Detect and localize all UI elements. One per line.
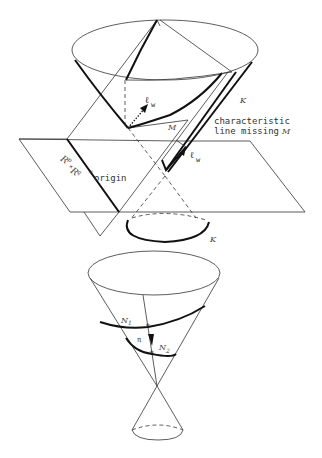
label-pi: π	[137, 336, 142, 344]
N1-point: *	[145, 322, 150, 332]
lower-diagram: * * N 1 N 2 π	[88, 251, 220, 440]
lower-cone-base	[132, 430, 183, 440]
label-K-upper: K	[239, 96, 247, 105]
label-top-vector-sub: w	[151, 101, 156, 109]
label-N2-sub: 2	[165, 347, 170, 354]
lower-cone-top-ellipse	[88, 251, 220, 295]
label-top-vector: ℓ	[145, 95, 149, 105]
label-characteristic: characteristic	[214, 116, 290, 126]
label-line-missing: line missing	[214, 126, 279, 136]
label-line-missing-M: M	[281, 127, 291, 136]
N2-point: *	[149, 349, 154, 359]
upper-diagram: * K K M ℓ w ℓ w characteristic line miss…	[19, 20, 305, 244]
label-K-lower: K	[209, 235, 217, 244]
origin-star: *	[88, 169, 93, 179]
projection-arrow	[148, 334, 154, 346]
label-origin: origin	[94, 173, 127, 183]
figure-canvas: * K K M ℓ w ℓ w characteristic line miss…	[0, 0, 322, 458]
N1-curve	[100, 306, 205, 328]
lower-cone-left-edge	[90, 278, 157, 386]
projection-line	[143, 295, 157, 386]
lower-cone-right-edge	[157, 278, 219, 386]
label-M: M	[167, 123, 177, 132]
label-char-vector-sub: w	[196, 156, 201, 164]
label-char-vector: ℓ	[190, 150, 194, 160]
label-rpq: R p × R q	[56, 151, 86, 179]
cone-K-lower-base	[127, 220, 209, 242]
label-N1-sub: 1	[128, 319, 132, 326]
